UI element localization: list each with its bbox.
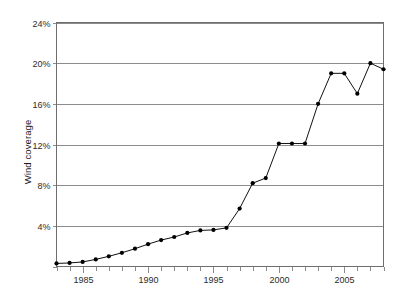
y-tick-label: 24% — [32, 19, 50, 29]
data-point — [303, 141, 307, 145]
data-point — [342, 71, 346, 75]
x-tick-label: 1985 — [73, 275, 93, 285]
y-tick-label: 12% — [32, 141, 50, 151]
data-point — [224, 226, 228, 230]
data-point — [81, 260, 85, 264]
data-point — [159, 238, 163, 242]
x-tick-label: 1990 — [138, 275, 158, 285]
data-point — [329, 71, 333, 75]
y-tick-label: 20% — [32, 59, 50, 69]
data-point — [277, 141, 281, 145]
data-point — [211, 228, 215, 232]
y-tick-label: 16% — [32, 100, 50, 110]
data-point — [251, 181, 255, 185]
data-point — [238, 206, 242, 210]
gridlines — [57, 24, 384, 227]
data-point — [146, 242, 150, 246]
data-point — [67, 261, 71, 265]
data-point — [198, 228, 202, 232]
x-tick-label: 2000 — [269, 275, 289, 285]
plot-frame — [57, 23, 384, 267]
data-point — [185, 231, 189, 235]
data-point — [355, 92, 359, 96]
x-tick-label: 1995 — [203, 275, 223, 285]
wind-coverage-markers — [54, 61, 385, 265]
figure-caption — [8, 291, 308, 302]
y-tick-label: 8% — [37, 181, 50, 191]
data-point — [54, 261, 58, 265]
data-point — [94, 257, 98, 261]
x-axis-ticks: 19851990199520002005 — [58, 267, 385, 285]
data-point — [133, 247, 137, 251]
data-point — [316, 102, 320, 106]
data-point — [368, 61, 372, 65]
data-point — [172, 235, 176, 239]
wind-coverage-line-chart: 4%8%12%16%20%24% 19851990199520002005 — [0, 0, 398, 304]
data-point — [264, 176, 268, 180]
data-point — [107, 254, 111, 258]
data-point — [381, 67, 385, 71]
data-point — [120, 251, 124, 255]
wind-coverage-line — [57, 63, 384, 263]
data-point — [290, 141, 294, 145]
wind-coverage-figure: Wind coverage 4%8%12%16%20%24% 198519901… — [0, 0, 398, 304]
y-tick-label: 4% — [37, 222, 50, 232]
y-axis-ticks: 4%8%12%16%20%24% — [32, 19, 56, 268]
x-tick-label: 2005 — [334, 275, 354, 285]
